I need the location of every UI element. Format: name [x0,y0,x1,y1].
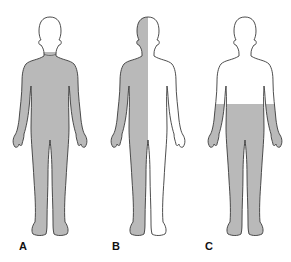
figure-label-b: B [112,241,120,252]
figure-label-c: C [205,241,213,252]
figure-label-a: A [19,241,27,252]
body-diagrams [0,0,291,262]
figure-c [208,17,282,236]
figure-b [111,17,185,236]
figure-a [13,17,87,236]
